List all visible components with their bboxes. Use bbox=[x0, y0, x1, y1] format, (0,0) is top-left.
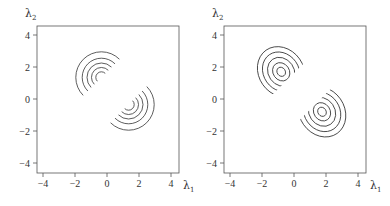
contour-line bbox=[119, 95, 139, 115]
contour-line bbox=[82, 58, 120, 96]
y-axis: −4−2024 bbox=[19, 30, 37, 169]
y-tick-label: −2 bbox=[206, 126, 217, 137]
x-tick-label: −4 bbox=[225, 178, 236, 189]
x-tick-label: 0 bbox=[292, 178, 297, 189]
y-tick-label: 2 bbox=[25, 62, 30, 73]
contour-line bbox=[269, 59, 293, 84]
y-axis: −4−2024 bbox=[206, 30, 224, 169]
x-tick-label: 0 bbox=[105, 178, 110, 189]
contour-line bbox=[316, 106, 328, 119]
x-tick-label: −2 bbox=[257, 178, 268, 189]
x-tick-label: 4 bbox=[356, 178, 361, 189]
contour-set bbox=[248, 37, 356, 146]
panel-right: −4−2024 −4−2024 λ2 λ1 bbox=[206, 7, 381, 194]
x-axis-title: λ1 bbox=[370, 179, 381, 194]
contour-line bbox=[310, 99, 334, 124]
contour-set bbox=[76, 52, 154, 130]
x-tick-label: −2 bbox=[70, 178, 81, 189]
contour-group-upper-left-mode bbox=[248, 37, 315, 106]
y-axis-title: λ2 bbox=[25, 7, 36, 22]
contour-group-lower-right-mode bbox=[288, 77, 355, 146]
contour-line bbox=[123, 99, 134, 110]
contour-line bbox=[248, 37, 315, 106]
contour-group-lower-right-mode bbox=[103, 79, 154, 130]
y-tick-label: 4 bbox=[25, 30, 30, 41]
contour-line bbox=[109, 85, 147, 123]
x-tick-label: 2 bbox=[324, 178, 329, 189]
plot-frame bbox=[37, 26, 179, 173]
x-axis: −4−2024 bbox=[38, 173, 174, 189]
y-tick-label: −4 bbox=[19, 158, 30, 169]
contour-line bbox=[262, 52, 301, 92]
contour-line bbox=[303, 92, 342, 132]
y-tick-label: 0 bbox=[212, 94, 217, 105]
contour-line bbox=[288, 77, 355, 146]
contour-line bbox=[76, 52, 127, 103]
x-tick-label: −4 bbox=[38, 178, 49, 189]
x-axis-title: λ1 bbox=[183, 179, 194, 194]
plot-frame bbox=[224, 26, 366, 173]
contour-line bbox=[96, 72, 107, 83]
contour-line bbox=[91, 67, 111, 87]
y-tick-label: 4 bbox=[212, 30, 217, 41]
x-tick-label: 4 bbox=[169, 178, 174, 189]
y-tick-label: 0 bbox=[25, 94, 30, 105]
contour-line bbox=[275, 66, 287, 79]
contour-group-upper-left-mode bbox=[76, 52, 127, 103]
contour-line bbox=[103, 79, 154, 130]
x-axis: −4−2024 bbox=[225, 173, 361, 189]
y-tick-label: −4 bbox=[206, 158, 217, 169]
figure: −4−2024 −4−2024 λ2 λ1 −4−2024 −4−2024 λ2… bbox=[0, 0, 390, 206]
panel-left: −4−2024 −4−2024 λ2 λ1 bbox=[19, 7, 194, 194]
x-tick-label: 2 bbox=[137, 178, 142, 189]
y-tick-label: 2 bbox=[212, 62, 217, 73]
y-axis-title: λ2 bbox=[212, 7, 223, 22]
y-tick-label: −2 bbox=[19, 126, 30, 137]
